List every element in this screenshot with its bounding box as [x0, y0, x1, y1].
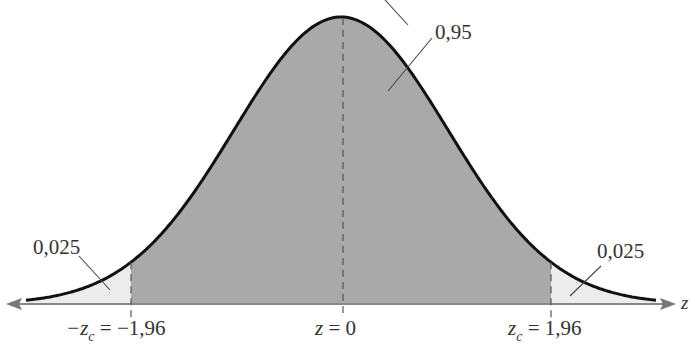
left-critical-label: −zc = −1,96: [66, 318, 166, 344]
right-tail-area-label: 0,025: [597, 241, 644, 262]
center-region: [26, 17, 656, 304]
axis-variable-label: z: [681, 293, 688, 312]
left-tail-area-label: 0,025: [33, 237, 80, 258]
normal-distribution-chart: [0, 0, 695, 359]
right-critical-label: zc = 1,96: [508, 318, 582, 344]
mean-label: z = 0: [315, 318, 356, 339]
center-area-label: 0,95: [435, 22, 472, 43]
